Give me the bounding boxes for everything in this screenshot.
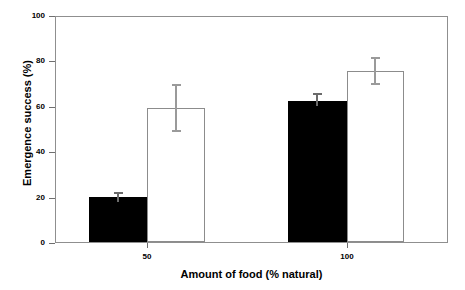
y-tick-label-100: 100 <box>5 12 45 20</box>
y-tick-label-40: 40 <box>5 148 45 156</box>
y-tick-mark-0 <box>49 243 55 244</box>
error-bar-cap-top <box>313 93 322 95</box>
bar-filled-50 <box>89 197 148 242</box>
error-bar-stem <box>175 84 177 132</box>
error-bar-open-100 <box>347 57 405 85</box>
y-axis-title: Emergence success (%) <box>21 3 33 243</box>
bar-open-100 <box>347 71 405 242</box>
error-bar-cap-top <box>172 84 181 86</box>
error-bar-open-50 <box>147 84 205 132</box>
error-bar-filled-50 <box>89 192 148 202</box>
error-bar-cap-top <box>371 57 380 59</box>
bar-chart-figure: Emergence success (%) 100 80 60 40 20 0 <box>0 0 465 290</box>
y-tick-label-20: 20 <box>5 194 45 202</box>
y-tick-label-80: 80 <box>5 57 45 65</box>
x-tick-label-50: 50 <box>117 252 177 261</box>
error-bar-stem <box>374 57 376 85</box>
error-bar-cap-bottom <box>371 83 380 85</box>
bar-filled-100 <box>288 101 347 242</box>
error-bar-filled-100 <box>288 93 347 106</box>
error-bar-cap-bottom <box>172 130 181 132</box>
x-tick-mark-100 <box>347 243 348 248</box>
plot-area <box>55 16 448 243</box>
x-tick-label-100: 100 <box>317 252 377 261</box>
error-bar-cap-top <box>114 192 123 194</box>
y-tick-label-0: 0 <box>5 239 45 247</box>
x-tick-mark-50 <box>147 243 148 248</box>
x-axis-title: Amount of food (% natural) <box>55 268 448 280</box>
y-tick-label-60: 60 <box>5 103 45 111</box>
